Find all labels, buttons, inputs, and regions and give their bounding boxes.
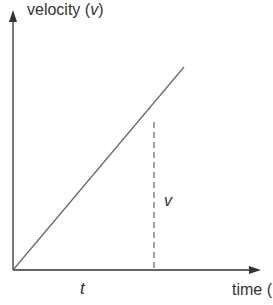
y-axis-label-prefix: velocity ( xyxy=(27,1,90,18)
y-axis-arrow-icon xyxy=(9,10,17,22)
time-marker-label: t xyxy=(80,280,85,297)
y-axis-label: velocity (v) xyxy=(27,2,103,18)
y-axis-label-var: v xyxy=(90,1,98,18)
velocity-time-diagram xyxy=(0,0,273,305)
velocity-marker-label: v xyxy=(164,193,172,209)
y-axis-label-suffix: ) xyxy=(98,1,103,18)
x-axis-arrow-icon xyxy=(249,266,261,274)
x-axis-label: time ( xyxy=(232,282,272,298)
velocity-line xyxy=(13,67,184,270)
